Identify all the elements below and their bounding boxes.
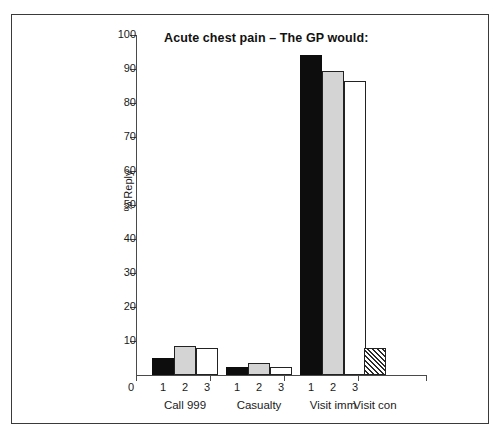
y-axis-tick-label-wrap: 0	[96, 369, 136, 380]
bar	[152, 358, 174, 375]
y-axis-tick-label-wrap: 70	[96, 131, 136, 142]
x-axis-sub-label: 2	[251, 381, 267, 393]
y-axis-tick-label: 10	[106, 335, 136, 346]
bar-group	[152, 35, 218, 375]
x-axis-sub-label: 1	[155, 381, 171, 393]
bar-group	[226, 35, 292, 375]
figure: Acute chest pain – The GP would: 0102030…	[0, 0, 502, 438]
x-axis-separator-tick	[284, 375, 285, 381]
x-axis-sub-label: 2	[177, 381, 193, 393]
x-axis-separator-tick	[136, 375, 137, 381]
y-axis-tick-label: 20	[106, 301, 136, 312]
bar	[248, 363, 270, 375]
bar	[364, 348, 386, 375]
x-axis-separator-tick	[426, 375, 427, 381]
x-axis-sub-label: 2	[325, 381, 341, 393]
y-axis-tick-label-wrap: 10	[96, 335, 136, 346]
x-axis-sub-label: 3	[273, 381, 289, 393]
x-axis-group-label: Visit con	[335, 399, 415, 411]
y-axis-tick-label-wrap: 20	[96, 301, 136, 312]
y-axis-tick-label-wrap: 40	[96, 233, 136, 244]
y-axis-tick-label: 70	[106, 131, 136, 142]
x-axis-separator-tick	[358, 375, 359, 381]
y-axis-label: % Reply	[122, 151, 134, 231]
bar	[322, 71, 344, 375]
x-axis-sub-label: 3	[199, 381, 215, 393]
x-axis-sub-label: 1	[229, 381, 245, 393]
bars-layer	[136, 35, 426, 375]
bar	[344, 81, 366, 375]
bar	[174, 346, 196, 375]
y-axis-tick-label-wrap: 30	[96, 267, 136, 278]
x-axis-sub-label: 1	[303, 381, 319, 393]
x-axis-group-label: Call 999	[145, 399, 225, 411]
bar	[196, 348, 218, 375]
bar	[270, 367, 292, 376]
chart-plot-area: Acute chest pain – The GP would: 0102030…	[0, 0, 502, 438]
y-axis-tick-label: 40	[106, 233, 136, 244]
x-axis-group-label: Casualty	[219, 399, 299, 411]
bar-group	[300, 35, 366, 375]
x-axis-sub-label: 3	[347, 381, 363, 393]
bar-group	[364, 35, 386, 375]
y-axis-tick-label-wrap: 90	[96, 63, 136, 74]
y-axis-tick-label: 80	[106, 97, 136, 108]
y-axis-tick-label: 100	[106, 29, 136, 40]
bar	[300, 55, 322, 375]
y-axis-tick-label: 30	[106, 267, 136, 278]
y-axis-tick-label: 90	[106, 63, 136, 74]
y-axis-tick-label-wrap: 80	[96, 97, 136, 108]
x-axis-zero-label: 0	[122, 381, 134, 393]
x-axis-line	[136, 375, 426, 376]
bar	[226, 367, 248, 376]
y-axis-tick-label-wrap: 100	[96, 29, 136, 40]
x-axis-separator-tick	[210, 375, 211, 381]
